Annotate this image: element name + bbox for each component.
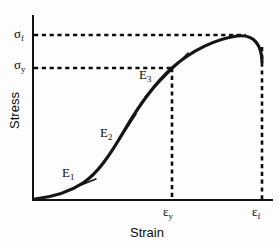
plot-canvas [0, 0, 279, 241]
epsilon-f-label: εf [252, 205, 260, 221]
y-axis-title: Stress [8, 81, 21, 141]
sigma-y-label: σy [14, 58, 25, 74]
e2-annotation: E2 [100, 126, 112, 142]
e1-annotation: E1 [62, 166, 74, 182]
tangent-line-e2 [112, 114, 136, 151]
x-axis-title: Strain [130, 226, 164, 239]
stress-strain-figure: σf σy εy εf E1 E2 E3 Stress Strain [0, 0, 279, 241]
sigma-f-label: σf [14, 27, 24, 43]
tangent-line-e3 [145, 53, 188, 97]
e3-annotation: E3 [139, 68, 151, 84]
epsilon-y-label: εy [163, 205, 173, 221]
